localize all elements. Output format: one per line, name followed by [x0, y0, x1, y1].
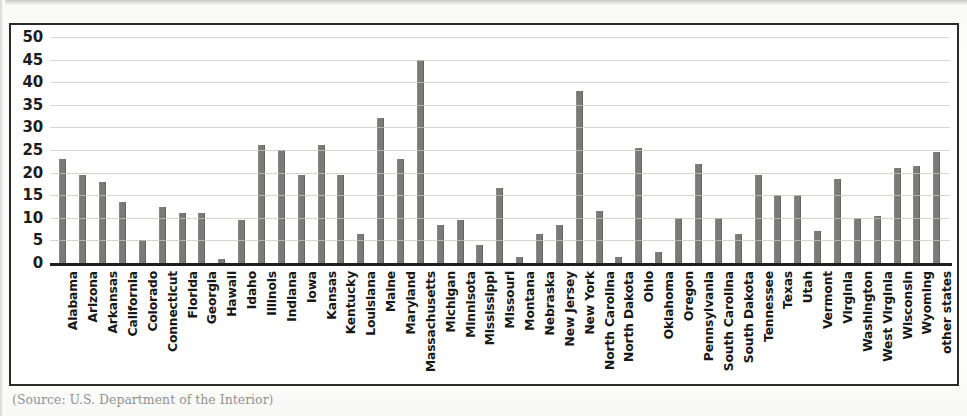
x-label-slot: Kansas [311, 269, 331, 387]
x-axis-line [50, 263, 952, 266]
bar [337, 175, 344, 263]
gridline [50, 218, 950, 219]
bar [417, 60, 424, 263]
page-left-edge [0, 0, 5, 416]
x-axis-tick-label: other states [941, 271, 953, 354]
page-top-edge [0, 0, 967, 7]
y-axis-tick-label: 25 [23, 143, 43, 158]
x-label-slot: Mississippi [470, 269, 490, 387]
x-label-slot: Wyoming [907, 269, 927, 387]
gridline [50, 105, 950, 106]
x-label-slot: Arkansas [93, 269, 113, 387]
gridline [50, 195, 950, 196]
bar [476, 245, 483, 263]
x-label-slot: Hawaii [212, 269, 232, 387]
x-label-slot: Missouri [490, 269, 510, 387]
y-axis-tick-label: 15 [23, 188, 43, 203]
y-axis-tick-label: 40 [23, 75, 43, 90]
x-label-slot: Minnisota [450, 269, 470, 387]
bar [278, 150, 285, 263]
x-label-slot: North Carolina [589, 269, 609, 387]
x-label-slot: Ohio [629, 269, 649, 387]
x-label-slot: Kentucky [331, 269, 351, 387]
y-axis-tick-label: 20 [23, 165, 43, 180]
gridline [50, 60, 950, 61]
x-label-slot: Illinois [252, 269, 272, 387]
bar [774, 195, 781, 263]
bar [695, 164, 702, 263]
x-label-slot: Georgia [192, 269, 212, 387]
x-label-slot: Texas [768, 269, 788, 387]
x-label-slot: Michigan [430, 269, 450, 387]
bar [59, 159, 66, 263]
bar [298, 175, 305, 263]
bar-chart: 50454035302520151050 AlabamaArizonaArkan… [9, 23, 959, 386]
y-axis-tick-label: 30 [23, 120, 43, 135]
bar [794, 195, 801, 263]
x-label-slot: Arizona [73, 269, 93, 387]
bar [536, 234, 543, 263]
bar [79, 175, 86, 263]
x-label-slot: South Dakota [728, 269, 748, 387]
y-axis-tick-label: 10 [23, 210, 43, 225]
x-axis-tick-labels: AlabamaArizonaArkansasCaliforniaColorado… [50, 269, 950, 387]
figure-caption: (Source: U.S. Department of the Interior… [12, 392, 712, 412]
x-label-slot: Connecticut [152, 269, 172, 387]
bar [397, 159, 404, 263]
x-label-slot: Montana [510, 269, 530, 387]
gridline [50, 127, 950, 128]
bar [99, 182, 106, 263]
x-label-slot: Maine [371, 269, 391, 387]
bar [913, 166, 920, 263]
x-label-slot: Wisconsin [887, 269, 907, 387]
bar [357, 234, 364, 263]
bar [655, 252, 662, 263]
x-label-slot: California [113, 269, 133, 387]
bar [635, 148, 642, 263]
x-label-slot: Florida [172, 269, 192, 387]
bar [318, 145, 325, 263]
bar [894, 168, 901, 263]
bar [496, 188, 503, 263]
bar [119, 202, 126, 263]
bar [159, 207, 166, 264]
x-label-slot: South Carolina [708, 269, 728, 387]
gridline [50, 82, 950, 83]
x-label-slot: Colorado [132, 269, 152, 387]
x-label-slot: Massachusetts [410, 269, 430, 387]
bar [457, 220, 464, 263]
x-label-slot: Iowa [291, 269, 311, 387]
x-label-slot: Virginia [828, 269, 848, 387]
x-label-slot: Pennsylvania [689, 269, 709, 387]
x-label-slot: other states [927, 269, 947, 387]
x-label-slot: Maryland [391, 269, 411, 387]
x-label-slot: Oregon [669, 269, 689, 387]
x-label-slot: New Jersey [549, 269, 569, 387]
x-label-slot: North Dakota [609, 269, 629, 387]
x-label-slot: Nebraska [530, 269, 550, 387]
x-label-slot: Utah [788, 269, 808, 387]
y-axis-tick-label: 45 [23, 52, 43, 67]
bar [874, 216, 881, 263]
bar [576, 91, 583, 263]
y-axis-tick-label: 5 [33, 233, 43, 248]
bar [198, 213, 205, 263]
bar [596, 211, 603, 263]
x-label-slot: Vermont [808, 269, 828, 387]
x-label-slot: Louisiana [351, 269, 371, 387]
bar [735, 234, 742, 263]
y-axis-tick-label: 35 [23, 97, 43, 112]
x-label-slot: Washington [847, 269, 867, 387]
x-label-slot: West Virginia [867, 269, 887, 387]
bar [933, 152, 940, 263]
x-label-slot: Oklahoma [649, 269, 669, 387]
bar [139, 240, 146, 263]
y-axis-tick-label: 0 [33, 256, 43, 271]
y-axis: 50454035302520151050 [9, 23, 47, 273]
x-label-slot: Indiana [271, 269, 291, 387]
bar [755, 175, 762, 263]
gridline [50, 37, 950, 38]
scanned-page: 50454035302520151050 AlabamaArizonaArkan… [0, 0, 967, 416]
gridline [50, 150, 950, 151]
bar [258, 145, 265, 263]
